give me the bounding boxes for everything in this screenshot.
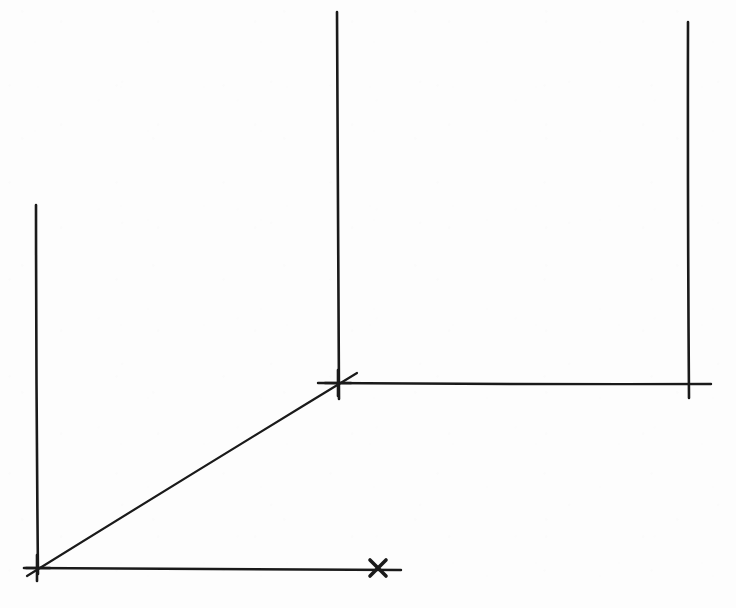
right-vertical-stroke [688, 22, 689, 398]
junction-cross-mark [325, 370, 351, 396]
upper-horizontal-stroke [318, 383, 711, 384]
hand-drawn-diagram [0, 0, 736, 608]
axis-x-tick-mark [370, 560, 386, 576]
lower-horizontal-stroke [26, 568, 401, 570]
middle-vertical-stroke [337, 12, 339, 399]
origin-cross-mark [24, 555, 50, 581]
mark-layer [24, 370, 386, 581]
left-vertical-stroke [36, 205, 38, 574]
drawing-canvas [0, 0, 736, 608]
stroke-layer [26, 12, 711, 576]
diagonal-stroke [27, 373, 357, 576]
